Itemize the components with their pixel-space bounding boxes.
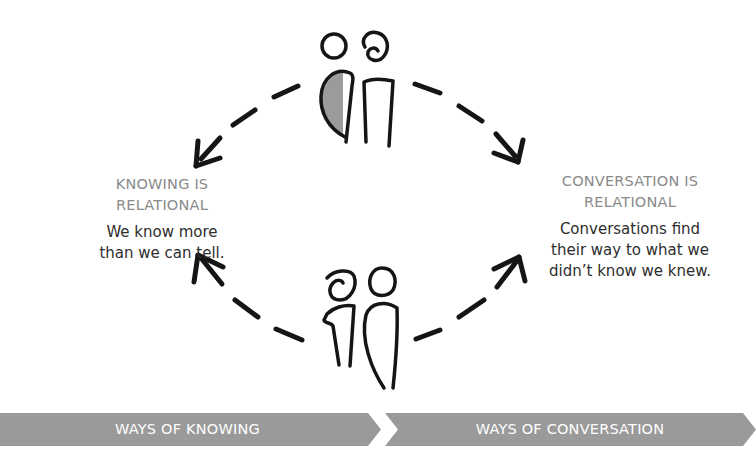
conversation-heading: CONVERSATION IS RELATIONAL xyxy=(530,171,730,213)
heading-line: RELATIONAL xyxy=(530,192,730,213)
body-line: their way to what we xyxy=(530,240,730,261)
heading-line: CONVERSATION IS xyxy=(530,171,730,192)
conversation-body: Conversations find their way to what we … xyxy=(530,219,730,282)
heading-line: KNOWING IS xyxy=(92,174,232,195)
two-people-one-shaded-icon xyxy=(321,32,393,146)
dashed-arrow-top-right xyxy=(415,84,523,162)
knowing-body: We know more than we can tell. xyxy=(92,222,232,264)
ways-of-knowing-label: WAYS OF KNOWING xyxy=(0,413,375,446)
heading-line: RELATIONAL xyxy=(92,195,232,216)
conversation-is-relational-block: CONVERSATION IS RELATIONAL Conversations… xyxy=(530,171,730,282)
ways-of-conversation-label: WAYS OF CONVERSATION xyxy=(395,413,745,446)
dashed-arrow-bottom-left xyxy=(194,255,302,340)
knowing-heading: KNOWING IS RELATIONAL xyxy=(92,174,232,216)
two-people-outline-icon xyxy=(324,268,397,388)
dashed-arrow-bottom-right xyxy=(416,257,525,339)
body-line: Conversations find xyxy=(530,219,730,240)
body-line: than we can tell. xyxy=(92,243,232,264)
dashed-arrow-top-left xyxy=(196,86,298,166)
body-line: We know more xyxy=(92,222,232,243)
body-line: didn’t know we knew. xyxy=(530,261,730,282)
knowing-is-relational-block: KNOWING IS RELATIONAL We know more than … xyxy=(92,174,232,264)
